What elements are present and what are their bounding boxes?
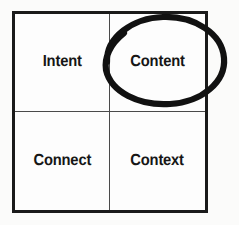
- matrix-cell-label-connect: Connect: [33, 153, 91, 169]
- diagram-canvas: Intent Content Connect Context: [0, 0, 239, 225]
- two-by-two-matrix: Intent Content Connect Context: [12, 11, 208, 213]
- matrix-cell-label-content: Content: [130, 54, 184, 70]
- matrix-cell-label-intent: Intent: [43, 54, 82, 70]
- matrix-cell-connect[interactable]: Connect: [15, 112, 110, 210]
- matrix-cell-label-context: Context: [131, 153, 185, 169]
- matrix-cell-intent[interactable]: Intent: [15, 14, 110, 112]
- matrix-cell-context[interactable]: Context: [110, 112, 205, 210]
- matrix-cell-content[interactable]: Content: [110, 14, 205, 112]
